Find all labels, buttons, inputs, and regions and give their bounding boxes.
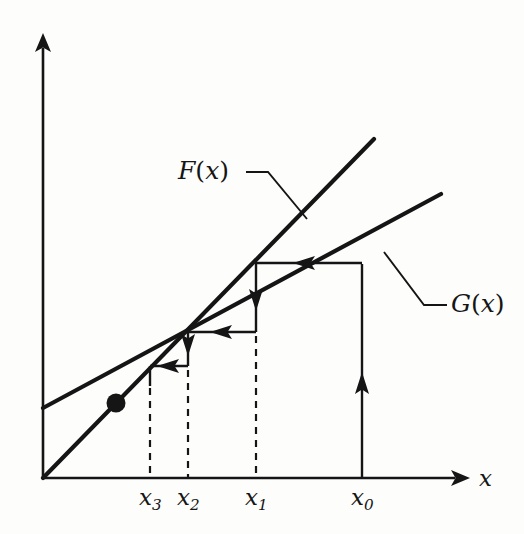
curve-label-f-open: ( [195, 156, 205, 185]
curve-g-line [43, 194, 441, 408]
tick-label-x0-base: x [351, 484, 364, 510]
f-label-leader [246, 172, 307, 219]
tick-label-x1-sub: 1 [258, 496, 268, 514]
curve-label-g-open: ( [471, 289, 481, 318]
dropline-group [150, 336, 256, 478]
tick-label-x3-base: x [139, 484, 152, 510]
tick-label-x0-sub: 0 [364, 496, 374, 514]
tick-label-x2-base: x [177, 484, 190, 510]
fixed-point-dot [107, 394, 126, 413]
tick-label-x3: x3 [139, 486, 162, 513]
curve-label-g-var: x [481, 289, 495, 318]
curve-label-f-base: F [178, 156, 195, 185]
curve-label-g: G(x) [451, 291, 505, 316]
curve-label-f: F(x) [178, 158, 229, 183]
cobweb-figure: F(x) G(x) x3 x2 x1 x0 x [0, 0, 524, 534]
tick-label-x2: x2 [177, 486, 200, 513]
curve-label-g-base: G [451, 289, 471, 318]
tick-label-x0: x0 [351, 486, 374, 513]
g-label-leader [384, 252, 447, 305]
curve-label-g-close: ) [495, 289, 505, 318]
tick-label-x3-sub: 3 [152, 496, 162, 514]
tick-label-x1-base: x [245, 484, 258, 510]
curve-label-f-var: x [205, 156, 219, 185]
figure-canvas [0, 0, 524, 534]
curve-f-line [43, 139, 374, 478]
curve-group [43, 139, 441, 478]
tick-label-x2-sub: 2 [190, 496, 200, 514]
x-axis-label: x [479, 467, 492, 490]
curve-label-f-close: ) [219, 156, 229, 185]
tick-label-x1: x1 [245, 486, 268, 513]
